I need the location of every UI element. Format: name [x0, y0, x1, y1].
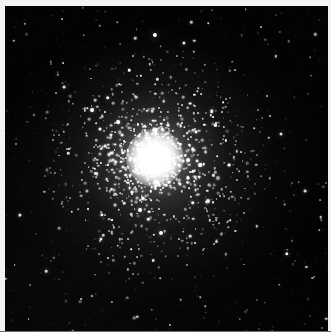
cluster-star — [158, 151, 161, 154]
cluster-star — [131, 191, 134, 194]
cluster-star — [131, 115, 133, 117]
field-star — [314, 276, 316, 278]
cluster-star — [184, 154, 187, 157]
cluster-star — [139, 172, 142, 175]
cluster-star — [233, 136, 235, 138]
grain-speck — [314, 50, 315, 51]
cluster-star — [137, 135, 139, 137]
grain-speck — [244, 28, 245, 29]
cluster-star — [221, 188, 224, 191]
cluster-star — [152, 158, 154, 160]
cluster-star — [186, 215, 188, 217]
field-star — [32, 91, 34, 93]
cluster-star — [68, 148, 70, 150]
grain-speck — [27, 14, 28, 15]
cluster-star — [228, 220, 229, 221]
cluster-star — [158, 155, 161, 158]
cluster-star — [194, 120, 196, 122]
grain-speck — [134, 17, 135, 18]
grain-speck — [88, 269, 89, 270]
cluster-star — [154, 155, 157, 158]
cluster-star — [138, 109, 140, 111]
cluster-star — [155, 158, 158, 161]
cluster-star — [207, 214, 210, 217]
cluster-star — [147, 155, 150, 158]
cluster-star — [90, 170, 93, 173]
cluster-star — [148, 154, 151, 157]
cluster-star — [133, 130, 135, 132]
grain-speck — [140, 108, 141, 109]
grain-speck — [93, 70, 94, 71]
cluster-star — [179, 147, 181, 149]
cluster-star — [136, 172, 139, 175]
field-star — [12, 319, 13, 320]
cluster-star — [124, 116, 127, 119]
cluster-star — [196, 160, 199, 163]
grain-speck — [165, 307, 166, 308]
grain-speck — [161, 185, 162, 186]
cluster-star — [219, 195, 221, 197]
cluster-star — [120, 62, 121, 63]
cluster-star — [162, 153, 164, 155]
cluster-star — [230, 214, 231, 215]
cluster-star — [154, 145, 157, 148]
cluster-star — [121, 238, 123, 240]
cluster-star — [153, 156, 156, 159]
cluster-star — [85, 219, 87, 221]
cluster-star — [109, 159, 112, 162]
cluster-star — [165, 123, 167, 125]
cluster-star — [150, 158, 153, 161]
cluster-star — [142, 56, 145, 59]
grain-speck — [59, 63, 60, 64]
cluster-star — [95, 122, 97, 124]
field-star — [81, 298, 83, 300]
cluster-star — [130, 127, 132, 129]
grain-speck — [154, 93, 155, 94]
grain-speck — [167, 68, 168, 69]
cluster-star — [142, 125, 144, 127]
cluster-star — [128, 159, 131, 162]
field-star — [33, 114, 35, 116]
cluster-star — [132, 55, 134, 57]
cluster-star — [153, 138, 156, 141]
cluster-star — [144, 186, 146, 188]
cluster-star — [153, 158, 155, 160]
cluster-star — [150, 155, 152, 157]
cluster-star — [97, 165, 99, 167]
cluster-star — [159, 153, 161, 155]
grain-speck — [305, 33, 306, 34]
grain-speck — [289, 307, 290, 308]
grain-speck — [55, 124, 56, 125]
grain-speck — [161, 303, 162, 304]
grain-speck — [159, 133, 160, 134]
cluster-star — [154, 154, 156, 156]
grain-speck — [181, 129, 182, 130]
grain-speck — [101, 265, 102, 266]
cluster-star — [153, 155, 155, 157]
grain-speck — [102, 198, 103, 199]
cluster-star — [153, 159, 156, 162]
grain-speck — [273, 160, 274, 161]
cluster-star — [178, 170, 180, 172]
cluster-star — [188, 130, 190, 132]
cluster-star — [129, 184, 131, 186]
cluster-star — [215, 240, 218, 243]
cluster-star — [181, 239, 184, 242]
cluster-star — [66, 226, 67, 227]
cluster-star — [155, 124, 157, 126]
cluster-star — [126, 181, 128, 183]
grain-speck — [30, 78, 31, 79]
cluster-star — [120, 156, 122, 158]
cluster-star — [141, 141, 144, 144]
cluster-star — [174, 92, 176, 94]
grain-speck — [130, 263, 131, 264]
cluster-star — [209, 148, 211, 150]
cluster-star — [118, 186, 120, 188]
cluster-star — [150, 216, 153, 219]
cluster-star — [175, 80, 177, 82]
grain-speck — [266, 263, 267, 264]
grain-speck — [206, 307, 207, 308]
cluster-star — [128, 239, 130, 241]
cluster-star — [114, 162, 117, 165]
cluster-star — [147, 152, 151, 156]
